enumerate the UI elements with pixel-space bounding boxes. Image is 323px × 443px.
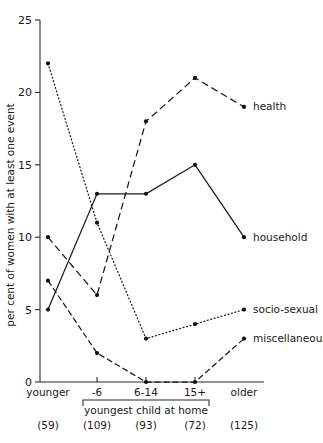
data-point-household-2 [144,192,148,196]
x-tick-label-1: -6 [92,386,103,398]
data-point-health-0 [46,235,50,239]
series-household [46,163,249,312]
data-point-miscellaneous-2 [144,380,148,384]
x-tick-label-4: older [231,386,258,398]
series-line-socio-sexual [48,63,244,338]
series-miscellaneous [46,279,249,385]
y-tick-label-15: 15 [18,159,32,172]
x-tick-label-2: 6-14 [134,386,158,398]
y-tick-label-25: 25 [18,14,32,27]
line-chart: 0510152025 per cent of women with at lea… [0,0,323,443]
x-tick-label-0: younger [26,386,70,398]
data-point-household-4 [242,235,246,239]
series-label-household: household [253,231,307,243]
group-count-labels: (59)(109)(93)(72)(125) [37,419,258,431]
data-series-group [46,61,249,384]
y-tick-marks [35,20,40,382]
data-point-household-3 [193,163,197,167]
data-point-miscellaneous-1 [95,351,99,355]
series-label-socio-sexual: socio-sexual [253,303,318,315]
x-tick-labels: younger-66-1415+older [26,386,258,398]
x-tick-label-3: 15+ [184,386,206,398]
group-count-2: (93) [135,419,157,431]
data-point-household-1 [95,192,99,196]
group-count-1: (109) [83,419,111,431]
data-point-miscellaneous-3 [193,380,197,384]
series-line-miscellaneous [48,281,244,382]
data-point-socio-sexual-3 [193,322,197,326]
data-point-health-2 [144,119,148,123]
series-label-miscellaneous: miscellaneous [253,332,323,344]
y-tick-label-20: 20 [18,86,32,99]
x-axis-title: youngest child at home [84,404,208,416]
series-line-health [48,78,244,295]
group-count-4: (125) [230,419,258,431]
series-health [46,76,249,297]
y-axis-title: per cent of women with at least one even… [4,103,16,326]
group-count-3: (72) [184,419,206,431]
series-line-household [48,165,244,310]
data-point-socio-sexual-1 [95,221,99,225]
y-tick-labels: 0510152025 [18,14,32,389]
y-tick-label-5: 5 [25,304,32,317]
x-axis: younger-66-1415+older youngest child at … [26,377,264,431]
series-label-health: health [253,100,286,112]
chart-canvas: 0510152025 per cent of women with at lea… [0,0,323,443]
y-tick-label-10: 10 [18,231,32,244]
group-count-0: (59) [37,419,59,431]
y-axis: 0510152025 per cent of women with at lea… [4,14,40,389]
data-point-health-3 [193,76,197,80]
data-point-socio-sexual-2 [144,336,148,340]
series-socio-sexual [46,61,249,340]
series-labels-group: healthhouseholdsocio-sexualmiscellaneous [253,100,323,344]
data-point-miscellaneous-0 [46,279,50,283]
data-point-household-0 [46,308,50,312]
data-point-health-1 [95,293,99,297]
data-point-socio-sexual-0 [46,61,50,65]
